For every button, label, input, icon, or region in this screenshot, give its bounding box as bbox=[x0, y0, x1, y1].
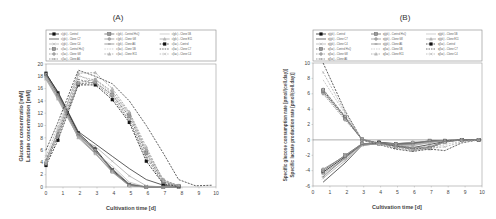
y-tick-label: 20 bbox=[37, 61, 43, 67]
x-tick-label: 2 bbox=[79, 190, 82, 196]
legend-item: c(lac) - Control HsQ bbox=[49, 47, 84, 51]
legend-label: q(lac) - Clone C7 bbox=[438, 47, 458, 51]
x-tick-label: 3 bbox=[362, 189, 365, 195]
legend-label: q(glc) - Control bbox=[328, 32, 346, 36]
chart-a: (A) c(glc) - Controlc(glc) - Control HsQ… bbox=[18, 13, 219, 211]
legend-label: q(glc) - Clone C4 bbox=[328, 42, 348, 46]
x-tick-label: 3 bbox=[96, 190, 99, 196]
x-tick-label: 0 bbox=[312, 189, 315, 195]
y-tick-label: 8 bbox=[40, 135, 43, 141]
x-tick-label: 10 bbox=[479, 189, 485, 195]
y-tick-label: 10 bbox=[304, 60, 310, 66]
legend-label: q(glc) - Clone 5B bbox=[438, 32, 458, 36]
legend-label: c(lac) - Clone A6 bbox=[61, 57, 81, 61]
legend-marker bbox=[429, 42, 432, 45]
y-tick-label: 4 bbox=[307, 106, 310, 112]
legend-label: q(lac) - Clone 5B bbox=[383, 47, 403, 51]
legend-marker bbox=[375, 38, 378, 41]
legend-item: q(lac) - Clone G8 bbox=[316, 52, 348, 56]
legend-item: q(lac) - Control HsQ bbox=[316, 47, 351, 51]
legend-label: q(lac) - Clone C4 bbox=[438, 52, 458, 56]
legend-marker bbox=[108, 32, 111, 35]
legend-label: c(lac) - Clone E11 bbox=[116, 52, 137, 56]
legend-marker bbox=[319, 47, 322, 50]
series-marker bbox=[322, 168, 325, 171]
chart-a-ylabel-glucose: Glucose concentratio [mM] bbox=[18, 90, 24, 161]
legend-label: c(glc) - Control HsQ bbox=[116, 32, 139, 36]
chart-b-title: (B) bbox=[400, 13, 411, 22]
y-tick-label: 2 bbox=[40, 171, 43, 177]
x-tick-label: 9 bbox=[198, 190, 201, 196]
chart-b-ylabel-glucose: Specific glucose consumption rate [pmol/… bbox=[283, 68, 288, 181]
x-tick-label: 0 bbox=[45, 190, 48, 196]
legend-marker bbox=[163, 42, 166, 45]
y-tick-label: 10 bbox=[37, 122, 43, 128]
series-marker bbox=[111, 90, 114, 93]
series-marker bbox=[145, 149, 148, 152]
y-tick-label: 2 bbox=[307, 121, 310, 127]
legend-item: q(glc) - Control bbox=[316, 32, 346, 36]
chart-a-xlabel: Cultivation time [d] bbox=[106, 205, 156, 211]
legend-label: c(glc) - Clone G8 bbox=[116, 37, 136, 41]
x-tick-label: 7 bbox=[430, 189, 433, 195]
legend-item: c(lac) - Control bbox=[160, 42, 189, 46]
legend-label: c(glc) - Clone E11 bbox=[172, 37, 193, 41]
chart-a-ylabel-lactate: Lactate concentration [mM] bbox=[25, 90, 31, 162]
x-tick-label: 4 bbox=[113, 190, 116, 196]
legend-marker bbox=[52, 32, 55, 35]
chart-b-xlabel: Cultivation time [d] bbox=[372, 204, 422, 210]
y-tick-label: 14 bbox=[37, 98, 43, 104]
series-marker bbox=[145, 160, 148, 163]
legend-label: q(glc) - Clone C7 bbox=[328, 37, 348, 41]
x-tick-label: 1 bbox=[62, 190, 65, 196]
x-tick-label: 1 bbox=[329, 189, 332, 195]
y-tick-label: 6 bbox=[40, 147, 43, 153]
y-tick-label: 0 bbox=[40, 184, 43, 190]
legend-marker bbox=[53, 53, 56, 56]
chart-b: (B) q(glc) - Controlq(glc) - Control HsQ… bbox=[283, 13, 485, 210]
series-marker bbox=[94, 78, 97, 81]
legend-label: q(lac) - Control HsQ bbox=[328, 47, 351, 51]
legend-item: c(glc) - Control HsQ bbox=[104, 32, 139, 36]
legend-label: q(glc) - Clone E11 bbox=[438, 37, 459, 41]
x-tick-label: 5 bbox=[130, 190, 133, 196]
legend-label: c(glc) - Clone C7 bbox=[61, 37, 81, 41]
x-tick-label: 8 bbox=[447, 189, 450, 195]
legend-label: q(lac) - Control bbox=[438, 42, 456, 46]
y-tick-label: 4 bbox=[40, 159, 43, 165]
y-tick-label: 0 bbox=[307, 137, 310, 143]
legend-label: q(lac) - Clone A6 bbox=[328, 57, 348, 61]
legend-item: c(lac) - Clone G8 bbox=[49, 52, 81, 56]
series-marker bbox=[111, 98, 114, 101]
legend-item: q(lac) - Control bbox=[426, 42, 456, 46]
x-tick-label: 9 bbox=[464, 189, 467, 195]
y-tick-label: 6 bbox=[307, 90, 310, 96]
chart-a-title: (A) bbox=[113, 13, 124, 22]
legend-label: c(glc) - Clone A6 bbox=[116, 42, 136, 46]
chart-b-ylabel-lactate: Specific lactate production rate [pmol/(… bbox=[290, 72, 295, 177]
legend-label: c(lac) - Clone C4 bbox=[172, 52, 192, 56]
x-tick-label: 8 bbox=[181, 190, 184, 196]
chart-b-plot-area bbox=[313, 63, 482, 186]
x-tick-label: 5 bbox=[396, 189, 399, 195]
x-tick-label: 10 bbox=[213, 190, 219, 196]
legend-label: c(glc) - Control bbox=[61, 32, 78, 36]
legend-marker bbox=[108, 38, 111, 41]
y-tick-label: 12 bbox=[37, 110, 43, 116]
legend-item: c(glc) - Control bbox=[49, 32, 78, 36]
legend-label: q(glc) - Clone A6 bbox=[383, 42, 403, 46]
x-tick-label: 6 bbox=[413, 189, 416, 195]
legend-item: q(glc) - Control HsQ bbox=[371, 32, 406, 36]
legend-label: c(glc) - Clone 5B bbox=[172, 32, 192, 36]
x-tick-label: 7 bbox=[164, 190, 167, 196]
legend-label: q(lac) - Clone G8 bbox=[328, 52, 348, 56]
legend-marker bbox=[374, 32, 377, 35]
y-tick-label: -2 bbox=[306, 152, 311, 158]
legend-label: c(lac) - Clone G8 bbox=[61, 52, 81, 56]
legend-label: q(glc) - Clone G8 bbox=[383, 37, 403, 41]
legend-label: c(lac) - Control bbox=[172, 42, 189, 46]
figure: (A) c(glc) - Controlc(glc) - Control HsQ… bbox=[0, 0, 496, 219]
legend-item: q(glc) - Clone G8 bbox=[371, 37, 403, 41]
legend-label: c(glc) - Clone C4 bbox=[61, 42, 81, 46]
x-tick-label: 2 bbox=[345, 189, 348, 195]
